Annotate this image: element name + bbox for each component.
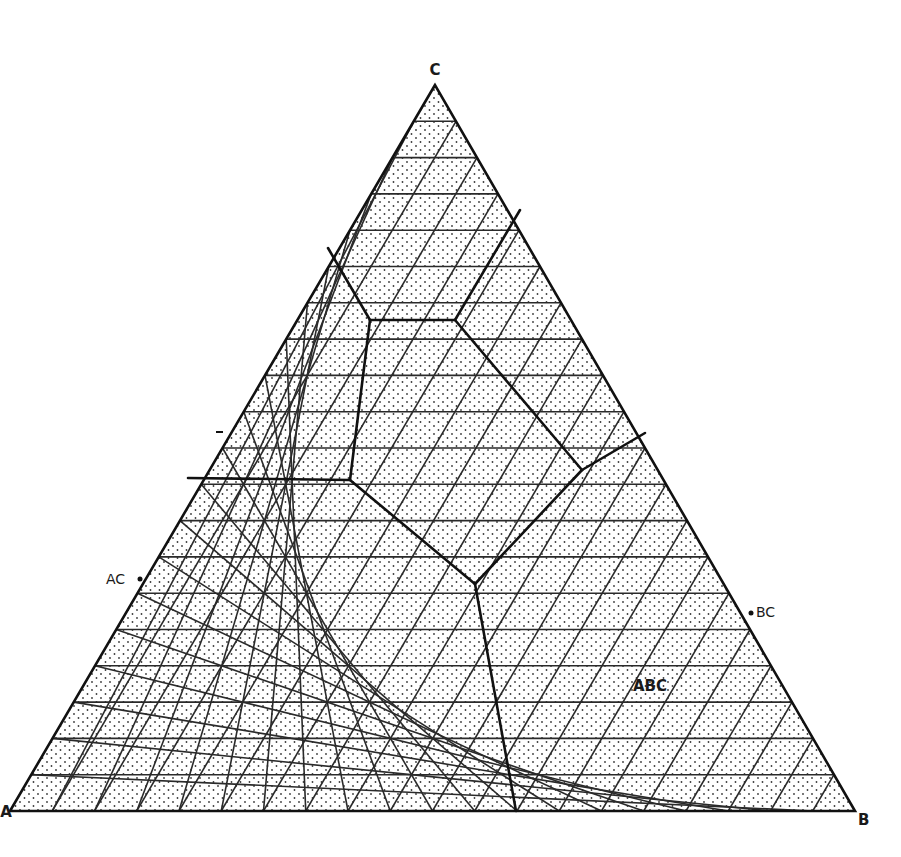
ac-point	[138, 577, 143, 582]
edge-label-bc: BC	[756, 604, 775, 620]
vertex-label-c: C	[429, 61, 440, 79]
vertex-label-a: A	[0, 803, 12, 821]
edge-label-ac: AC	[106, 571, 125, 587]
vertex-label-b: B	[858, 811, 869, 829]
region-label-abc: ABC	[633, 677, 667, 695]
bc-point	[749, 611, 754, 616]
ternary-diagram: C A B AC BC ABC	[0, 0, 901, 857]
